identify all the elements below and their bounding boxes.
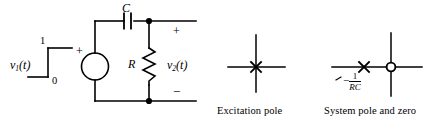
pole-fraction-denominator: RC — [349, 81, 361, 92]
system-zero-marker — [387, 63, 396, 72]
input-voltage-label: v1(t) — [10, 59, 30, 73]
step-low-label: 0 — [52, 76, 57, 87]
resistor-label: R — [128, 58, 135, 70]
capacitor-symbol — [124, 14, 131, 29]
source-plus-sign: + — [76, 45, 83, 57]
node-dot-bottom — [146, 98, 152, 104]
system-pole-value-label: −1RC — [343, 72, 361, 92]
pole-fraction-numerator: 1 — [349, 72, 361, 81]
node-dot-top — [146, 18, 152, 24]
output-voltage-label: v2(t) — [167, 59, 187, 73]
pole-label-pointer — [336, 77, 341, 80]
system-plot-caption: System pole and zero — [324, 106, 416, 117]
excitation-plot-axes — [228, 35, 285, 92]
output-plus-sign: + — [173, 25, 180, 37]
excitation-plot-caption: Excitation pole — [217, 106, 282, 117]
step-high-label: 1 — [40, 36, 45, 47]
pole-fraction: 1RC — [349, 72, 361, 92]
input-voltage-arg: (t) — [19, 58, 30, 72]
step-waveform — [28, 48, 72, 77]
voltage-source-symbol — [82, 53, 109, 80]
output-minus-sign: − — [173, 85, 180, 98]
figure-container: v1(t) 1 0 + C R v2(t) + − −1RC Excitatio… — [0, 0, 438, 125]
capacitor-label: C — [122, 2, 130, 14]
resistor-symbol — [143, 48, 155, 85]
output-voltage-arg: (t) — [176, 58, 187, 72]
